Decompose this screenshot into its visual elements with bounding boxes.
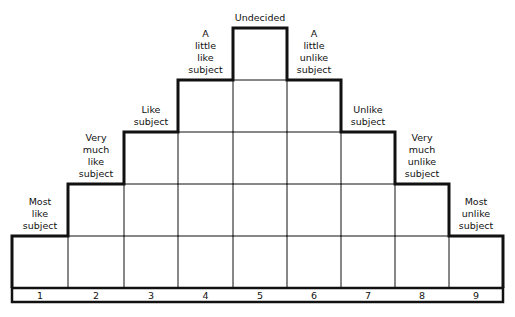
column-number-4: 4 [202,290,208,301]
column-number-5: 5 [257,290,263,301]
q-sort-diagram: 123456789 Most like subjectVery much lik… [0,0,515,317]
column-label-1: Most like subject [10,196,70,232]
column-label-3: Like subject [121,104,181,128]
column-number-6: 6 [311,290,317,301]
column-label-6: A little unlike subject [284,28,344,76]
column-number-7: 7 [365,290,371,301]
column-number-1: 1 [37,290,43,301]
column-number-2: 2 [93,290,99,301]
column-label-8: Very much unlike subject [392,132,452,180]
column-label-2: Very much like subject [66,132,126,180]
column-label-7: Unlike subject [338,104,398,128]
column-number-3: 3 [148,290,154,301]
column-number-9: 9 [473,290,479,301]
column-label-5: Undecided [230,12,290,24]
column-label-4: A little like subject [176,28,236,76]
column-label-9: Most unlike subject [446,196,506,232]
column-number-8: 8 [419,290,425,301]
